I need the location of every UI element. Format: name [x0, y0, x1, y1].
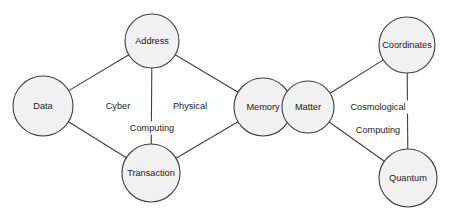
node-label-matter: Matter: [295, 102, 321, 112]
node-address[interactable]: Address: [125, 14, 179, 68]
node-coordinates[interactable]: Coordinates: [379, 17, 435, 73]
label-computing-right-text: Computing: [356, 125, 400, 135]
node-label-address: Address: [135, 36, 169, 46]
node-data[interactable]: Data: [13, 76, 73, 136]
node-label-transaction: Transaction: [127, 168, 175, 178]
node-label-coordinates: Coordinates: [382, 40, 432, 50]
diagram-svg: DataAddressTransactionMemoryMatterCoordi…: [0, 0, 453, 219]
label-physical-text: Physical: [173, 101, 207, 111]
label-cyber: Cyber: [102, 100, 134, 113]
label-computing-right: Computing: [352, 124, 405, 137]
node-label-data: Data: [33, 101, 53, 111]
edge-data-address: [69, 55, 129, 91]
label-computing-left-text: Computing: [130, 123, 174, 133]
node-label-quantum: Quantum: [389, 173, 427, 183]
edge-data-transaction: [68, 122, 126, 158]
edge-address-memory: [175, 55, 238, 92]
node-matter[interactable]: Matter: [282, 81, 334, 133]
edge-transaction-memory: [176, 122, 238, 159]
node-quantum[interactable]: Quantum: [379, 149, 437, 207]
node-transaction[interactable]: Transaction: [122, 144, 180, 202]
edge-matter-coordinates: [330, 60, 383, 93]
node-label-memory: Memory: [246, 102, 280, 112]
diagram-canvas: DataAddressTransactionMemoryMatterCoordi…: [0, 0, 453, 219]
label-cosmological-text: Cosmological: [350, 102, 405, 112]
label-cyber-text: Cyber: [106, 101, 131, 111]
label-physical: Physical: [166, 100, 214, 113]
label-computing-left: Computing: [126, 122, 179, 135]
label-cosmological: Cosmological: [344, 101, 412, 114]
